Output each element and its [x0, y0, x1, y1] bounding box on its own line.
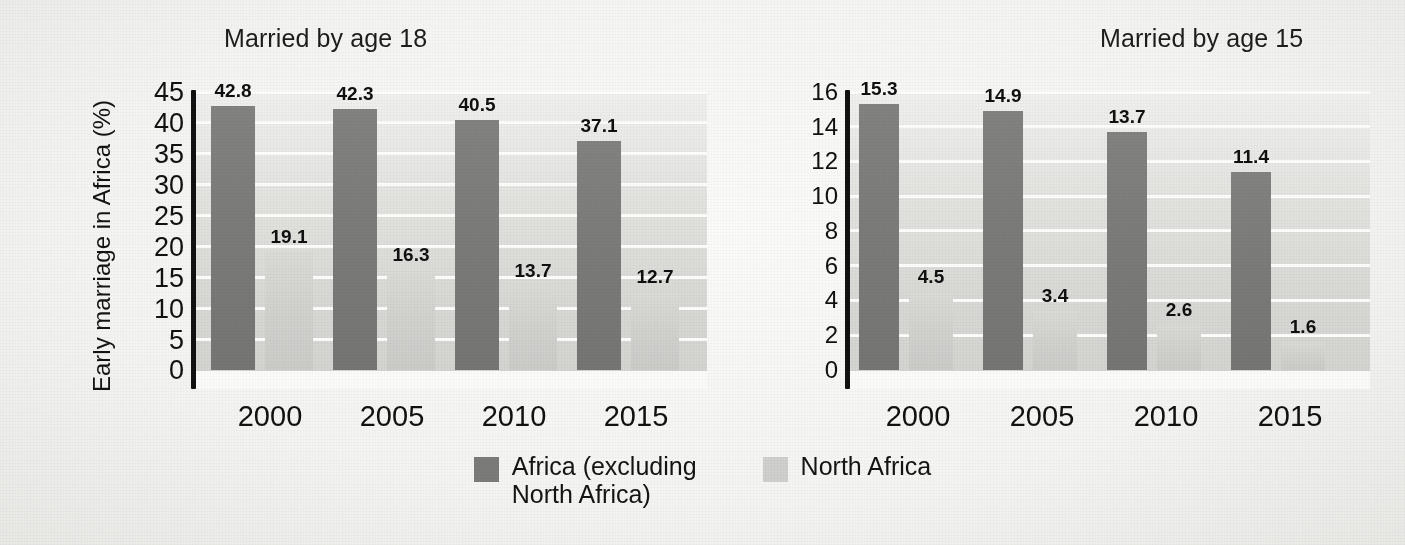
- x-axis-label-2005: 2005: [1010, 400, 1075, 433]
- x-axis-label-2015: 2015: [604, 400, 669, 433]
- bar-value-label: 3.4: [1042, 285, 1068, 307]
- y-tick-label: 4: [825, 288, 838, 312]
- y-tick-label: 10: [154, 295, 184, 322]
- y-tick-label: 0: [169, 357, 184, 384]
- y-tick-label: 14: [811, 115, 838, 139]
- bar-group-container: 15.34.514.93.413.72.611.41.6: [850, 92, 1370, 389]
- y-tick-label: 8: [825, 219, 838, 243]
- bar-value-label: 4.5: [918, 266, 944, 288]
- y-tick-label: 30: [154, 171, 184, 198]
- bar-value-label: 13.7: [1109, 106, 1146, 128]
- bar-group-container: 42.819.142.316.340.513.737.112.7: [196, 92, 707, 389]
- bar-value-label: 2.6: [1166, 299, 1192, 321]
- bar-value-label: 13.7: [515, 260, 552, 282]
- plot-area-left: 42.819.142.316.340.513.737.112.7: [196, 92, 707, 389]
- legend-swatch-icon: [474, 457, 499, 482]
- bar-value-label: 12.7: [637, 266, 674, 288]
- chart-legend: Africa (excluding North Africa)North Afr…: [0, 452, 1405, 542]
- bar-north-africa-2010[interactable]: [1157, 325, 1201, 370]
- y-tick-label: 10: [811, 184, 838, 208]
- plot-area-right: 15.34.514.93.413.72.611.41.6: [850, 92, 1370, 389]
- bar-value-label: 42.3: [337, 83, 374, 105]
- y-axis-ticks-left: 454035302520151050: [120, 92, 184, 372]
- chart-page: Early marriage in Africa (%) Married by …: [0, 0, 1405, 545]
- bar-north-africa-2015[interactable]: [1281, 342, 1325, 370]
- legend-item-north-africa[interactable]: North Africa: [763, 452, 932, 482]
- y-tick-label: 2: [825, 323, 838, 347]
- x-axis-label-2010: 2010: [1134, 400, 1199, 433]
- x-axis-label-2005: 2005: [360, 400, 425, 433]
- bar-africa-excluding-north-africa-2005[interactable]: [333, 109, 377, 371]
- y-tick-label: 16: [811, 80, 838, 104]
- legend-label: Africa (excluding North Africa): [512, 452, 697, 508]
- y-tick-label: 5: [169, 326, 184, 353]
- legend-swatch-icon: [763, 457, 788, 482]
- y-tick-label: 6: [825, 254, 838, 278]
- bar-north-africa-2015[interactable]: [631, 292, 679, 371]
- bar-value-label: 42.8: [215, 80, 252, 102]
- bar-north-africa-2000[interactable]: [909, 292, 953, 370]
- bar-value-label: 19.1: [271, 226, 308, 248]
- x-axis-labels-left: 2000200520102015: [196, 400, 707, 440]
- chart-title-right: Married by age 15: [1100, 24, 1303, 53]
- y-tick-label: 0: [825, 358, 838, 382]
- y-tick-label: 20: [154, 233, 184, 260]
- chart-title-left: Married by age 18: [224, 24, 427, 53]
- bar-value-label: 15.3: [861, 78, 898, 100]
- bar-africa-excluding-north-africa-2000[interactable]: [859, 104, 899, 370]
- y-tick-label: 40: [154, 109, 184, 136]
- y-axis-line-right: [845, 90, 850, 389]
- bar-africa-excluding-north-africa-2015[interactable]: [1231, 172, 1271, 370]
- bar-value-label: 40.5: [459, 94, 496, 116]
- bar-north-africa-2010[interactable]: [509, 286, 557, 371]
- bar-value-label: 14.9: [985, 85, 1022, 107]
- bar-africa-excluding-north-africa-2000[interactable]: [211, 106, 255, 371]
- x-axis-label-2010: 2010: [482, 400, 547, 433]
- bar-africa-excluding-north-africa-2010[interactable]: [1107, 132, 1147, 370]
- bar-north-africa-2005[interactable]: [1033, 311, 1077, 370]
- bar-value-label: 1.6: [1290, 316, 1316, 338]
- bar-north-africa-2005[interactable]: [387, 270, 435, 371]
- bar-value-label: 11.4: [1233, 146, 1269, 168]
- y-tick-label: 35: [154, 140, 184, 167]
- bar-africa-excluding-north-africa-2005[interactable]: [983, 111, 1023, 370]
- y-axis-ticks-right: 1614121086420: [778, 92, 838, 372]
- x-axis-label-2000: 2000: [238, 400, 303, 433]
- y-tick-label: 45: [154, 79, 184, 106]
- bar-value-label: 16.3: [393, 244, 430, 266]
- y-tick-label: 12: [811, 149, 838, 173]
- y-tick-label: 25: [154, 202, 184, 229]
- bar-africa-excluding-north-africa-2010[interactable]: [455, 120, 499, 371]
- x-axis-label-2015: 2015: [1258, 400, 1323, 433]
- bar-north-africa-2000[interactable]: [265, 252, 313, 370]
- legend-item-africa-excluding-north-africa[interactable]: Africa (excluding North Africa): [474, 452, 697, 508]
- bar-value-label: 37.1: [581, 115, 618, 137]
- bar-africa-excluding-north-africa-2015[interactable]: [577, 141, 621, 371]
- legend-label: North Africa: [801, 452, 932, 480]
- y-axis-line-left: [191, 90, 196, 389]
- x-axis-labels-right: 2000200520102015: [850, 400, 1370, 440]
- y-tick-label: 15: [154, 264, 184, 291]
- x-axis-label-2000: 2000: [886, 400, 951, 433]
